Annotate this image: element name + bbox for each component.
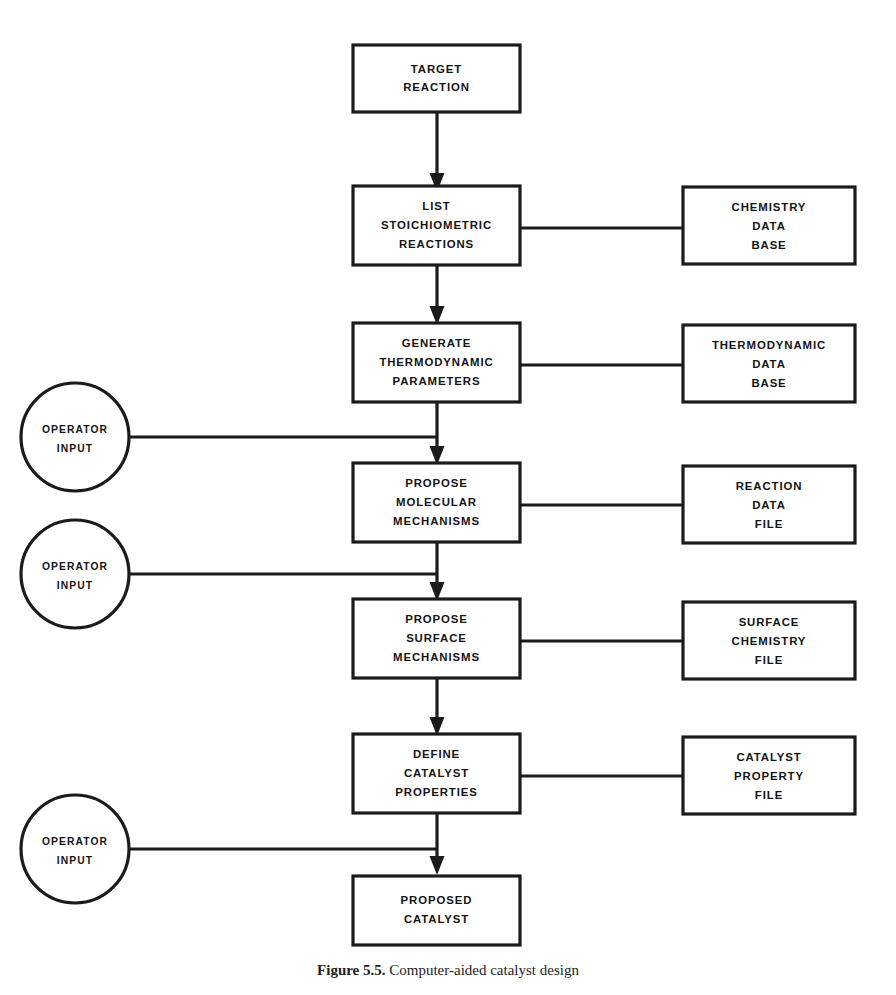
node-target-reaction[interactable]: TARGET REACTION [353, 45, 520, 112]
node-surface-chemistry-file-line1: SURFACE [739, 616, 800, 628]
node-surface-chemistry-file-line2: CHEMISTRY [732, 635, 807, 647]
node-define-catalyst-line3: PROPERTIES [395, 786, 477, 798]
node-operator-input-1-line2: INPUT [57, 443, 93, 454]
connector-generate-to-molecular [430, 400, 445, 465]
node-catalyst-property-file-line2: PROPERTY [734, 770, 804, 782]
node-thermodynamic-data-base[interactable]: THERMODYNAMIC DATA BASE [683, 325, 855, 402]
node-propose-surface-line3: MECHANISMS [393, 651, 480, 663]
node-target-reaction-line2: REACTION [403, 81, 470, 93]
connector-define-to-proposed [430, 811, 445, 875]
node-list-stoichiometric-line2: STOICHIOMETRIC [381, 219, 492, 231]
node-propose-surface-line1: PROPOSE [405, 613, 468, 625]
node-chemistry-data-base-line1: CHEMISTRY [732, 201, 807, 213]
connector-list-to-generate [430, 265, 445, 325]
node-list-stoichiometric-line1: LIST [422, 200, 450, 212]
catalyst-design-flowchart: TARGET REACTION LIST STOICHIOMETRIC REAC… [0, 0, 896, 995]
node-proposed-catalyst[interactable]: PROPOSED CATALYST [353, 876, 520, 945]
connector-surface-to-define [430, 676, 445, 736]
node-proposed-catalyst-line2: CATALYST [404, 913, 469, 925]
node-catalyst-property-file-line3: FILE [755, 789, 783, 801]
node-catalyst-property-file-line1: CATALYST [736, 751, 801, 763]
figure-caption: Figure 5.5. Computer-aided catalyst desi… [0, 962, 896, 979]
node-list-stoichiometric-line3: REACTIONS [399, 238, 474, 250]
node-catalyst-property-file[interactable]: CATALYST PROPERTY FILE [683, 737, 855, 814]
node-operator-input-1[interactable]: OPERATOR INPUT [21, 383, 129, 491]
node-proposed-catalyst-line1: PROPOSED [401, 894, 473, 906]
node-define-catalyst-line1: DEFINE [413, 748, 460, 760]
node-propose-surface-line2: SURFACE [406, 632, 467, 644]
node-generate-thermodynamic-line3: PARAMETERS [393, 375, 481, 387]
node-propose-molecular-line1: PROPOSE [405, 477, 468, 489]
node-propose-molecular-line3: MECHANISMS [393, 515, 480, 527]
node-define-catalyst[interactable]: DEFINE CATALYST PROPERTIES [353, 734, 520, 813]
node-chemistry-data-base-line3: BASE [751, 239, 786, 251]
node-surface-chemistry-file[interactable]: SURFACE CHEMISTRY FILE [683, 602, 855, 679]
node-define-catalyst-line2: CATALYST [404, 767, 469, 779]
node-propose-surface[interactable]: PROPOSE SURFACE MECHANISMS [353, 599, 520, 678]
figure-container: TARGET REACTION LIST STOICHIOMETRIC REAC… [0, 0, 896, 995]
node-surface-chemistry-file-line3: FILE [755, 654, 783, 666]
node-operator-input-3-line2: INPUT [57, 855, 93, 866]
node-operator-input-2-line1: OPERATOR [42, 561, 108, 572]
node-target-reaction-line1: TARGET [411, 63, 462, 75]
node-reaction-data-file-line3: FILE [755, 518, 783, 530]
node-thermodynamic-data-base-line3: BASE [751, 377, 786, 389]
node-operator-input-3[interactable]: OPERATOR INPUT [21, 795, 129, 903]
node-generate-thermodynamic-line1: GENERATE [402, 337, 472, 349]
node-generate-thermodynamic-line2: THERMODYNAMIC [379, 356, 493, 368]
node-reaction-data-file-line1: REACTION [736, 480, 803, 492]
node-reaction-data-file[interactable]: REACTION DATA FILE [683, 466, 855, 543]
node-thermodynamic-data-base-line2: DATA [752, 358, 786, 370]
node-operator-input-2[interactable]: OPERATOR INPUT [21, 520, 129, 628]
node-chemistry-data-base[interactable]: CHEMISTRY DATA BASE [683, 187, 855, 264]
node-reaction-data-file-line2: DATA [752, 499, 786, 511]
connector-target-to-list [430, 112, 445, 192]
figure-caption-text: Computer-aided catalyst design [389, 962, 579, 978]
node-thermodynamic-data-base-line1: THERMODYNAMIC [712, 339, 826, 351]
node-operator-input-1-line1: OPERATOR [42, 424, 108, 435]
node-operator-input-3-line1: OPERATOR [42, 836, 108, 847]
node-operator-input-2-line2: INPUT [57, 580, 93, 591]
node-generate-thermodynamic[interactable]: GENERATE THERMODYNAMIC PARAMETERS [353, 323, 520, 402]
node-chemistry-data-base-line2: DATA [752, 220, 786, 232]
node-list-stoichiometric[interactable]: LIST STOICHIOMETRIC REACTIONS [353, 186, 520, 265]
node-propose-molecular[interactable]: PROPOSE MOLECULAR MECHANISMS [353, 463, 520, 542]
connector-molecular-to-surface [430, 540, 445, 601]
node-propose-molecular-line2: MOLECULAR [396, 496, 477, 508]
figure-caption-number: Figure 5.5. [317, 962, 385, 978]
